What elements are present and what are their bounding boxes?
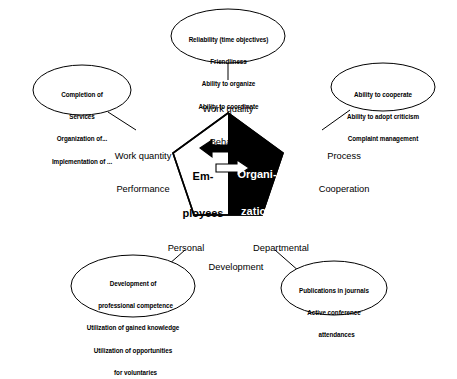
note-line: Friendliness bbox=[172, 58, 285, 65]
note-line: professional competence bbox=[68, 302, 198, 309]
note-line: attendances bbox=[281, 331, 387, 338]
pentagon-label-employees: Em- ployees bbox=[176, 145, 230, 244]
axis-label-process-cooperation: Process Cooperation bbox=[296, 129, 392, 217]
pentagon-label-line: Organi- bbox=[228, 168, 286, 180]
pentagon-label-line: Em- bbox=[176, 170, 230, 182]
pentagon-label-organization: Organi- zation bbox=[228, 143, 286, 242]
note-line: Reliability (time objectives) bbox=[172, 36, 285, 43]
axis-label-development: Development bbox=[186, 240, 286, 295]
note-personal-development: Development of professional competence U… bbox=[68, 265, 198, 379]
axis-label-line: Work quality bbox=[173, 104, 283, 115]
note-line: Utilization of gained knowledge bbox=[68, 324, 198, 331]
axis-label-line: Development bbox=[186, 262, 286, 273]
note-line: Completion of bbox=[34, 91, 130, 98]
note-line: Services bbox=[34, 113, 130, 120]
pentagon-label-line: zation bbox=[228, 205, 286, 217]
note-line: Active conference bbox=[281, 309, 387, 316]
note-line: for voluntaries bbox=[68, 369, 198, 376]
note-line: Ability to adopt criticism bbox=[333, 113, 433, 120]
note-line: Publications in journals bbox=[281, 287, 387, 294]
axis-label-line: Process bbox=[296, 151, 392, 162]
note-departmental-development: Publications in journals Active conferen… bbox=[281, 272, 387, 354]
pentagon-label-line: ployees bbox=[176, 207, 230, 219]
note-line: Utilization of opportunities bbox=[68, 347, 198, 354]
note-line: Development of bbox=[68, 280, 198, 287]
note-line: Ability to cooperate bbox=[333, 91, 433, 98]
axis-label-line: Cooperation bbox=[296, 184, 392, 195]
